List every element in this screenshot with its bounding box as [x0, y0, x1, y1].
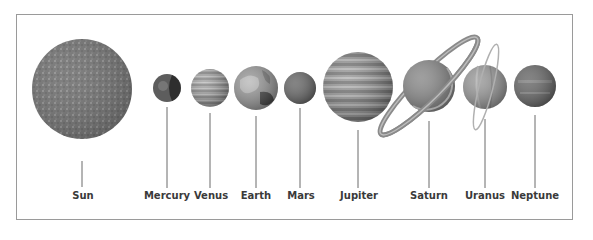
uranus [463, 43, 507, 188]
label-sun: Sun [72, 190, 93, 201]
mercury [153, 74, 181, 188]
label-mercury: Mercury [144, 190, 190, 201]
label-jupiter: Jupiter [340, 190, 378, 201]
mars [284, 72, 316, 188]
label-mars: Mars [287, 190, 315, 201]
neptune [514, 65, 556, 188]
venus [191, 69, 229, 188]
sun [32, 39, 132, 187]
label-uranus: Uranus [465, 190, 505, 201]
label-earth: Earth [241, 190, 271, 201]
earth [234, 66, 278, 188]
label-saturn: Saturn [410, 190, 448, 201]
label-neptune: Neptune [511, 190, 559, 201]
saturn [372, 29, 487, 188]
label-venus: Venus [194, 190, 228, 201]
